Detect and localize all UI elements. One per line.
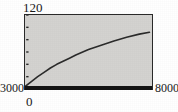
chart-figure: 120 3000 8000 0 xyxy=(0,0,178,112)
x-axis-min-label: 3000 xyxy=(0,82,24,94)
y-axis-max-label: 120 xyxy=(23,1,43,14)
y-axis-tick-group xyxy=(26,15,28,77)
plot-svg xyxy=(25,15,152,89)
origin-label: 0 xyxy=(26,95,33,108)
x-axis-max-label: 8000 xyxy=(155,82,178,94)
data-series-group xyxy=(25,32,149,86)
x-axis-baseline xyxy=(25,86,152,90)
plot-area xyxy=(24,14,153,90)
data-series-line xyxy=(25,32,149,86)
